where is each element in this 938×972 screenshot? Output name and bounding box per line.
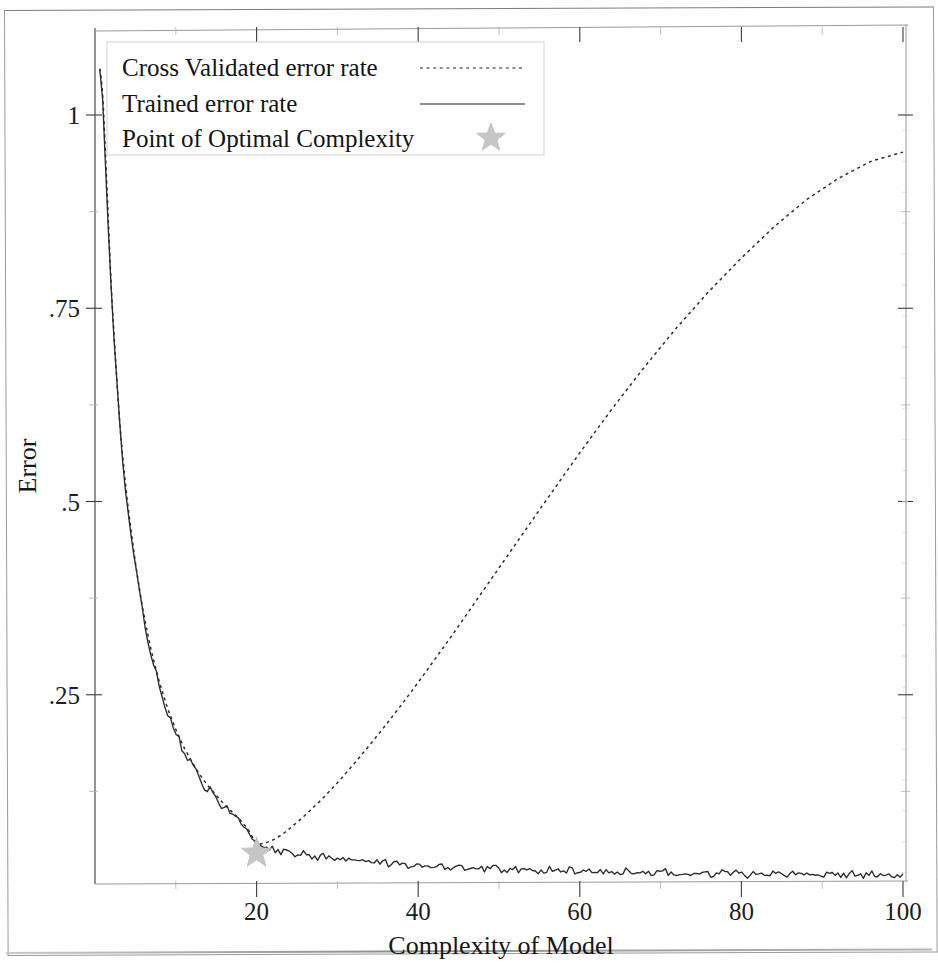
x-tick-label: 80 <box>729 898 754 925</box>
legend: Cross Validated error rate Trained error… <box>107 42 544 155</box>
top-axis-line <box>95 25 908 31</box>
x-axis-title: Complexity of Model <box>388 931 613 960</box>
scanned-page: 20406080100.25.5.751 Complexity of Model… <box>0 0 938 972</box>
x-axis-line <box>95 881 908 884</box>
error-vs-complexity-chart: 20406080100.25.5.751 Complexity of Model… <box>0 0 938 972</box>
x-tick-label: 100 <box>884 898 922 925</box>
y-tick-label: 1 <box>68 102 81 129</box>
x-tick-label: 40 <box>406 898 431 925</box>
cross-validated-error-curve <box>100 69 903 845</box>
data-curves <box>100 69 903 879</box>
y-tick-label: .75 <box>49 295 80 322</box>
y-tick-label: .5 <box>61 489 80 516</box>
y-tick-label: .25 <box>49 682 80 709</box>
legend-label-optimal-point: Point of Optimal Complexity <box>122 125 415 152</box>
tick-marks <box>86 27 913 897</box>
legend-label-cross-validated: Cross Validated error rate <box>122 54 378 81</box>
y-axis-title: Error <box>13 438 42 493</box>
trained-error-curve <box>100 70 903 879</box>
x-tick-label: 60 <box>567 898 592 925</box>
tick-labels: 20406080100.25.5.751 <box>49 102 922 925</box>
legend-label-trained: Trained error rate <box>122 90 297 117</box>
x-tick-label: 20 <box>244 898 269 925</box>
